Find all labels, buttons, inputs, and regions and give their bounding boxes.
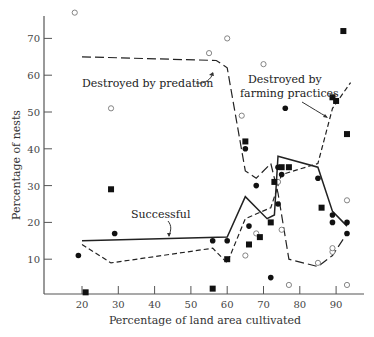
predation-point <box>286 282 291 287</box>
y-tick-label: 50 <box>27 107 40 118</box>
farming-point <box>268 219 274 225</box>
successful-point <box>210 238 216 244</box>
predation-point <box>108 106 113 111</box>
y-tick-label: 30 <box>27 181 40 192</box>
x-tick-label: 40 <box>148 299 161 310</box>
annotation-farming-line1: Destroyed by <box>248 73 323 86</box>
predation-point <box>344 198 349 203</box>
successful-point <box>279 172 285 178</box>
x-tick-label: 60 <box>221 299 234 310</box>
annotation-successful: Successful <box>131 208 191 221</box>
x-tick-label: 90 <box>330 299 343 310</box>
successful-point <box>224 238 230 244</box>
farming-point <box>257 234 263 240</box>
farming-point <box>210 286 216 292</box>
arrow-farming <box>302 102 327 117</box>
annotation-farming-line2: farming practices <box>240 87 339 100</box>
farming-point <box>319 205 325 211</box>
successful-line <box>82 156 347 241</box>
successful-point <box>282 106 288 112</box>
successful-point <box>315 175 321 181</box>
arrowhead-predation <box>209 72 214 76</box>
successful-point <box>344 231 350 237</box>
arrowhead-successful <box>167 233 171 237</box>
successful-point <box>253 183 259 189</box>
farming-point <box>242 138 248 144</box>
predation-point <box>239 113 244 118</box>
farming-point <box>340 28 346 34</box>
farming-point <box>224 256 230 262</box>
annotations: Destroyed by predation Destroyed by farm… <box>82 72 339 237</box>
predation-point <box>225 36 230 41</box>
y-tick-label: 70 <box>27 33 40 44</box>
x-tick-label: 30 <box>112 299 125 310</box>
y-tick-label: 40 <box>27 144 40 155</box>
successful-point <box>246 223 252 229</box>
predation-point <box>261 62 266 67</box>
x-tick-label: 50 <box>185 299 198 310</box>
predation-point <box>279 227 284 232</box>
successful-point <box>243 146 249 152</box>
predation-point <box>72 10 77 15</box>
farming-point <box>344 131 350 137</box>
farming-point <box>279 164 285 170</box>
successful-point <box>330 220 336 226</box>
predation-point <box>243 253 248 258</box>
y-axis-title: Percentage of nests <box>10 110 23 220</box>
farming-point <box>271 179 277 185</box>
farming-point <box>108 186 114 192</box>
successful-point <box>112 231 118 237</box>
y-tick-label: 60 <box>27 70 40 81</box>
x-tick-label: 20 <box>76 299 89 310</box>
x-tick-label: 70 <box>257 299 270 310</box>
successful-point <box>330 212 336 218</box>
annotation-predation: Destroyed by predation <box>82 77 213 90</box>
y-tick-label: 10 <box>27 254 40 265</box>
successful-point <box>344 220 350 226</box>
predation-point <box>315 260 320 265</box>
x-tick-label: 80 <box>293 299 306 310</box>
predation-point <box>344 282 349 287</box>
predation-point <box>206 51 211 56</box>
x-axis-title: Percentage of land area cultivated <box>109 314 301 327</box>
data-points <box>72 10 350 295</box>
farming-point <box>286 164 292 170</box>
nest-fate-chart: 203040506070809010203040506070 Destroyed… <box>0 0 374 337</box>
destroyed-by-farming-practices-line <box>82 83 351 263</box>
farming-point <box>246 241 252 247</box>
predation-point <box>330 246 335 251</box>
farming-point <box>83 289 89 295</box>
successful-point <box>76 253 82 259</box>
successful-point <box>275 201 281 207</box>
y-tick-label: 20 <box>27 217 40 228</box>
successful-point <box>268 275 274 281</box>
